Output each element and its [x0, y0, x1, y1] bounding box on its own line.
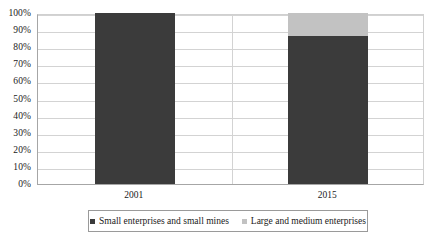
bar-column[interactable] [288, 13, 368, 184]
chart-legend: Small enterprises and small mines Large … [88, 210, 368, 232]
x-axis-tick-label: 2015 [231, 190, 425, 201]
y-axis-tick-label: 50% [13, 95, 31, 105]
bar-segment[interactable] [288, 13, 368, 36]
y-axis-tick-label: 40% [13, 112, 31, 122]
y-axis: 0%10%20%30%40%50%60%70%80%90%100% [0, 0, 34, 190]
y-axis-tick-label: 0% [18, 180, 31, 190]
y-axis-tick-label: 20% [13, 146, 31, 156]
y-axis-tick-label: 10% [13, 163, 31, 173]
bar-segment[interactable] [95, 13, 175, 184]
y-axis-tick-label: 60% [13, 77, 31, 87]
y-axis-tick-label: 70% [13, 60, 31, 70]
plot-area [37, 14, 424, 185]
legend-item-label: Large and medium enterprises [251, 216, 366, 227]
legend-swatch-icon [242, 219, 247, 224]
legend-item-small-enterprises[interactable]: Small enterprises and small mines [90, 216, 229, 227]
bar-column[interactable] [95, 13, 175, 184]
legend-item-large-medium-enterprises[interactable]: Large and medium enterprises [242, 216, 366, 227]
y-axis-tick-label: 30% [13, 129, 31, 139]
y-axis-tick-label: 80% [13, 43, 31, 53]
x-axis-tick-label: 2001 [37, 190, 231, 201]
stacked-bar-chart: 0%10%20%30%40%50%60%70%80%90%100% 200120… [0, 0, 436, 240]
gridline-vertical [232, 15, 233, 184]
bar-segment[interactable] [288, 36, 368, 184]
legend-swatch-icon [90, 219, 95, 224]
legend-item-label: Small enterprises and small mines [99, 216, 229, 227]
y-axis-tick-label: 100% [8, 9, 31, 19]
x-axis: 20012015 [37, 188, 424, 206]
y-axis-tick-label: 90% [13, 26, 31, 36]
